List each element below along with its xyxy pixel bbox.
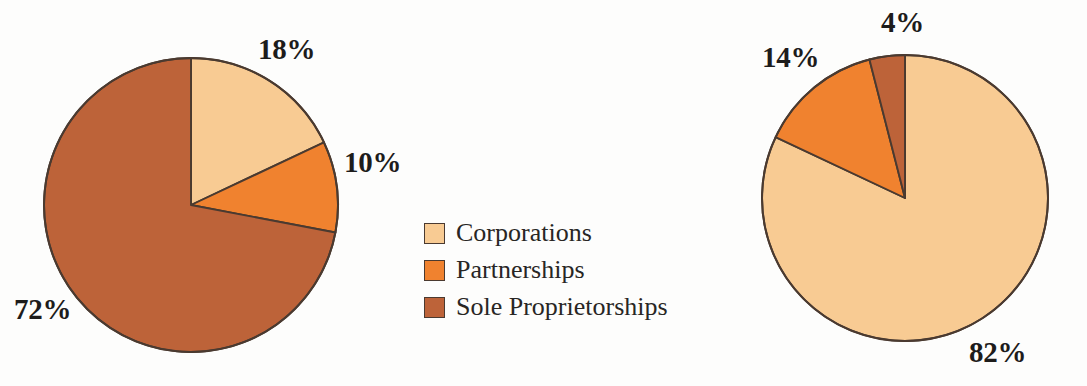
legend-item-corporations: Corporations bbox=[424, 218, 668, 248]
pie-slice-label-14-percent: 14% bbox=[762, 43, 819, 72]
legend-label-partnerships: Partnerships bbox=[456, 257, 585, 283]
pie-chart-business-receipts bbox=[759, 52, 1051, 344]
legend-swatch-partnerships-icon bbox=[424, 260, 445, 281]
chart-legend: Corporations Partnerships Sole Proprieto… bbox=[424, 218, 668, 322]
pie-slice-label-4-percent: 4% bbox=[881, 8, 924, 37]
pie-chart-number-of-businesses bbox=[41, 55, 341, 355]
legend-item-sole-proprietorships: Sole Proprietorships bbox=[424, 292, 668, 322]
legend-label-corporations: Corporations bbox=[456, 220, 592, 246]
pie-slice-label-18-percent: 18% bbox=[258, 35, 315, 64]
pie-slice-label-82-percent: 82% bbox=[969, 338, 1026, 367]
legend-item-partnerships: Partnerships bbox=[424, 255, 668, 285]
legend-label-sole-proprietorships: Sole Proprietorships bbox=[456, 294, 668, 320]
legend-swatch-corporations-icon bbox=[424, 223, 445, 244]
pie-slice-label-10-percent: 10% bbox=[344, 148, 401, 177]
legend-swatch-sole-proprietorships-icon bbox=[424, 297, 445, 318]
pie-slice-label-72-percent: 72% bbox=[14, 295, 71, 324]
figure-canvas: 18% 10% 72% Corporations Partnerships So… bbox=[0, 0, 1087, 386]
